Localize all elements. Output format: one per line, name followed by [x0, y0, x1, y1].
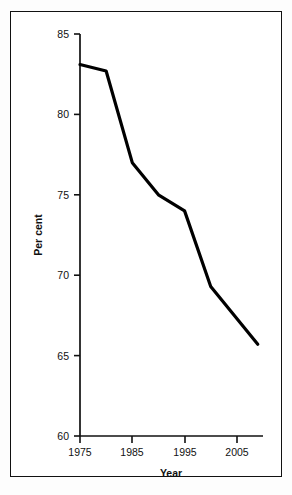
x-axis-title: Year: [160, 467, 182, 478]
y-tick-label-80: 80: [57, 108, 69, 120]
y-tick-label-60: 60: [57, 430, 69, 442]
y-tick-label-75: 75: [57, 189, 69, 201]
x-tick-label-2005: 2005: [225, 446, 249, 458]
line-chart: 85 80 75 70 65 60 1975 1985 1995 2005: [11, 12, 283, 478]
plot-area: 85 80 75 70 65 60 1975 1985 1995 2005: [11, 12, 281, 476]
caption-text-sliver: [12, 484, 280, 494]
y-tick-marks: [74, 34, 80, 436]
y-tick-label-85: 85: [57, 28, 69, 40]
figure-page: 85 80 75 70 65 60 1975 1985 1995 2005: [0, 0, 292, 495]
y-axis-title: Per cent: [32, 214, 44, 256]
x-tick-label-1975: 1975: [68, 446, 92, 458]
x-tick-label-1995: 1995: [173, 446, 197, 458]
x-tick-label-1985: 1985: [120, 446, 144, 458]
data-series-line: [80, 65, 258, 345]
y-tick-label-70: 70: [57, 269, 69, 281]
figure-frame: 85 80 75 70 65 60 1975 1985 1995 2005: [10, 11, 282, 477]
y-tick-label-65: 65: [57, 350, 69, 362]
x-tick-marks: [80, 436, 237, 443]
